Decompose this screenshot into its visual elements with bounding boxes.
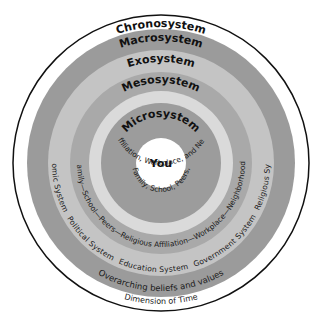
ecological-systems-diagram: Chronosystem Macrosystem Exosystem Mesos…: [0, 0, 322, 328]
